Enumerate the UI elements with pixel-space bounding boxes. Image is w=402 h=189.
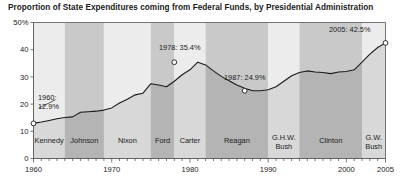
x-tick-label: 1970	[103, 165, 120, 174]
admin-label-kennedy: Kennedy	[35, 136, 64, 145]
admin-label-line2: Bush	[365, 142, 382, 151]
annot-1987-label: 1987: 24.9%	[224, 73, 266, 82]
chart-container: Proportion of State Expenditures coming …	[0, 0, 402, 189]
y-tick-label: 10	[20, 127, 28, 136]
admin-label-ford: Ford	[155, 136, 170, 145]
annot-1978-label: 1978: 35.4%	[159, 43, 201, 52]
annot-2005-marker	[383, 41, 388, 46]
y-tick-label: 30	[20, 73, 28, 82]
x-tick-label: 2005	[377, 165, 394, 174]
x-tick-label: 2000	[338, 165, 355, 174]
x-tick-label: 1960	[25, 165, 42, 174]
admin-label-carter: Carter	[180, 136, 201, 145]
admin-label-line2: Bush	[275, 142, 292, 151]
x-tick-label: 1980	[181, 165, 198, 174]
chart-plot: KennedyJohnsonNixonFordCarterReaganG.H.W…	[0, 0, 402, 189]
admin-label-nixon: Nixon	[118, 136, 137, 145]
y-tick-label: 40	[20, 45, 28, 54]
x-tick-label: 1990	[260, 165, 277, 174]
y-tick-label: 0	[24, 154, 28, 163]
annot-1960-label: 1960:	[38, 93, 57, 102]
annot-1987-marker	[242, 88, 247, 93]
admin-label-johnson: Johnson	[70, 136, 98, 145]
annot-1960-marker	[31, 121, 36, 126]
admin-label-clinton: Clinton	[319, 136, 342, 145]
annot-1978-marker	[172, 60, 177, 65]
y-tick-label: 20	[20, 100, 28, 109]
admin-label-reagan: Reagan	[224, 136, 250, 145]
annot-2005-label: 2005: 42.5%	[329, 25, 371, 34]
admin-label-gw: G.W.	[366, 133, 382, 142]
y-tick-label: 50%	[13, 18, 28, 27]
admin-label-ghw: G.H.W.	[272, 133, 296, 142]
annot-1960-label2: 12.9%	[38, 102, 59, 111]
